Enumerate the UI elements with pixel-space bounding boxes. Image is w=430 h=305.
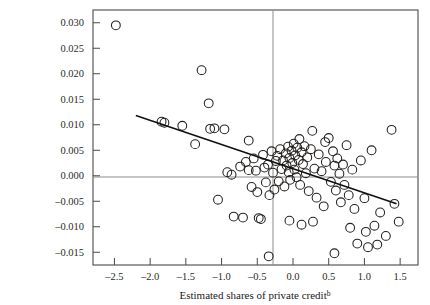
y-tick-label: 0.025 (60, 43, 84, 54)
y-tick-label: 0.000 (60, 170, 84, 181)
x-tick-label: –2.5 (104, 271, 123, 282)
regression-line (136, 116, 397, 204)
data-point (356, 156, 365, 165)
data-point (308, 126, 317, 135)
data-point (336, 198, 345, 207)
data-point (330, 249, 339, 258)
zero-reference-lines (93, 10, 418, 265)
data-point (346, 223, 355, 232)
data-point (244, 136, 253, 145)
data-point (214, 195, 223, 204)
data-point (360, 194, 369, 203)
data-point (376, 208, 385, 217)
data-point (387, 125, 396, 134)
data-point (229, 212, 238, 221)
data-point (253, 188, 262, 197)
data-point (303, 153, 312, 162)
x-axis-title: Estimated shares of private creditb (180, 289, 331, 302)
data-point (267, 147, 276, 156)
scatter-chart-figure: 0.0300.0250.0200.0150.0100.0050.000–0.00… (0, 0, 430, 305)
data-point (350, 205, 359, 214)
data-point (361, 227, 370, 236)
y-tick-label: –0.015 (54, 247, 84, 258)
data-point (394, 217, 403, 226)
data-point (309, 217, 318, 226)
x-tick-label: –2.0 (140, 271, 159, 282)
data-point (191, 140, 200, 149)
data-point (261, 178, 270, 187)
data-point (339, 160, 348, 169)
data-point (297, 220, 306, 229)
x-tick-label: 0.0 (286, 271, 299, 282)
x-tick-label: 1.5 (394, 271, 407, 282)
svg-text:Estimated shares of private cr: Estimated shares of private creditb (180, 289, 331, 302)
data-point (236, 162, 245, 171)
data-point (264, 252, 273, 261)
data-point (178, 121, 187, 130)
data-point (344, 191, 353, 200)
y-tick-label: –0.005 (54, 196, 84, 207)
data-point (314, 150, 323, 159)
data-point (247, 183, 256, 192)
y-tick-label: 0.015 (60, 94, 84, 105)
data-point (111, 21, 120, 30)
trend-line (136, 116, 397, 204)
x-axis-title-text: Estimated shares of private credit (180, 289, 327, 301)
data-point (381, 232, 390, 241)
data-point (321, 158, 330, 167)
data-point (204, 99, 213, 108)
x-tick-label: –1.0 (211, 271, 230, 282)
data-point (367, 146, 376, 155)
x-axis-title-superscript: b (327, 289, 331, 298)
data-point (270, 185, 279, 194)
x-tick-label: 0.5 (322, 271, 335, 282)
data-point (364, 243, 373, 252)
x-tick-label: –0.5 (247, 271, 266, 282)
data-point (353, 239, 362, 248)
data-point (285, 216, 294, 225)
data-point (220, 125, 229, 134)
x-axis-ticks: –2.5–2.0–1.5–1.0–0.50.00.51.01.5 (104, 258, 406, 282)
data-point (348, 165, 357, 174)
data-point (239, 213, 248, 222)
scatter-points (111, 21, 403, 261)
data-point (373, 240, 382, 249)
y-tick-label: 0.005 (60, 145, 84, 156)
data-point (304, 187, 313, 196)
data-point (312, 193, 321, 202)
x-tick-label: 1.0 (358, 271, 371, 282)
plot-frame (93, 10, 418, 265)
chart-svg: 0.0300.0250.0200.0150.0100.0050.000–0.00… (0, 0, 430, 305)
x-tick-label: –1.5 (176, 271, 195, 282)
data-point (319, 202, 328, 211)
data-point (370, 221, 379, 230)
data-point (296, 181, 305, 190)
data-point (342, 141, 351, 150)
y-tick-label: 0.030 (60, 17, 84, 28)
data-point (274, 177, 283, 186)
y-tick-label: 0.010 (60, 119, 84, 130)
y-tick-label: –0.010 (54, 221, 84, 232)
data-point (197, 66, 206, 75)
y-tick-label: 0.020 (60, 68, 84, 79)
data-point (331, 186, 340, 195)
